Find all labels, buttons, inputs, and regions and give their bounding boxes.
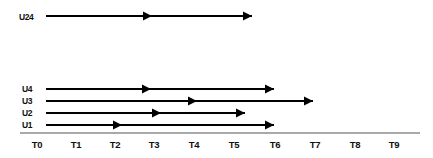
end-arrow-icon-u1 (265, 120, 274, 129)
axis-tick-label-t7: T7 (310, 139, 321, 150)
track-u24: U24 (19, 11, 252, 22)
mid-arrow-icon-u4 (142, 84, 151, 93)
axis-tick-label-t8: T8 (350, 139, 361, 150)
track-u1: U1 (22, 120, 274, 130)
axis-tick-label-t0: T0 (32, 139, 43, 150)
mid-arrow-icon-u2 (152, 108, 161, 117)
axis-tick-label-t9: T9 (389, 139, 400, 150)
end-arrow-icon-u2 (236, 108, 245, 117)
axis-tick-label-t1: T1 (71, 139, 83, 150)
axis-tick-label-t3: T3 (149, 139, 160, 150)
tick-label-group: T0T1T2T3T4T5T6T7T8T9 (32, 139, 400, 150)
track-u2: U2 (22, 108, 245, 118)
track-group: U24U4U3U2U1 (19, 11, 313, 130)
track-label-u1: U1 (22, 120, 33, 130)
track-label-u2: U2 (22, 108, 33, 118)
mid-arrow-icon-u24 (143, 11, 152, 20)
track-label-u24: U24 (19, 12, 34, 22)
track-label-u3: U3 (22, 96, 33, 106)
end-arrow-icon-u3 (304, 96, 313, 105)
timeline-diagram: U24U4U3U2U1 T0T1T2T3T4T5T6T7T8T9 (0, 0, 433, 158)
axis-tick-label-t6: T6 (270, 139, 281, 150)
end-arrow-icon-u4 (265, 84, 274, 93)
timeline-canvas: U24U4U3U2U1 T0T1T2T3T4T5T6T7T8T9 (0, 0, 433, 158)
axis-tick-label-t2: T2 (110, 139, 121, 150)
axis-tick-label-t4: T4 (189, 139, 201, 150)
track-label-u4: U4 (22, 84, 33, 94)
end-arrow-icon-u24 (243, 11, 252, 20)
track-u4: U4 (22, 84, 274, 94)
track-u3: U3 (22, 96, 313, 106)
axis-tick-label-t5: T5 (229, 139, 241, 150)
mid-arrow-icon-u3 (188, 96, 197, 105)
mid-arrow-icon-u1 (113, 120, 122, 129)
